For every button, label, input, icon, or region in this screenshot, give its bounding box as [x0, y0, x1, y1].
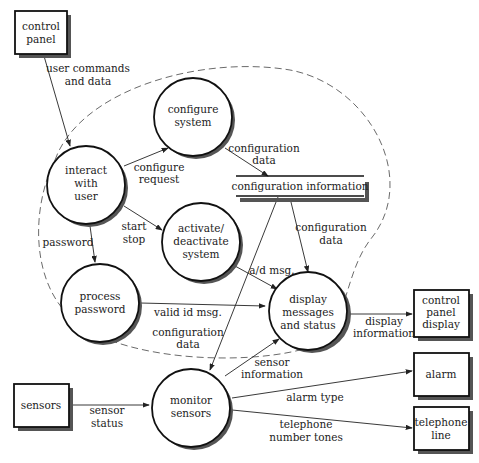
svg-text:display: display	[289, 293, 327, 305]
svg-text:sensors: sensors	[21, 399, 61, 411]
svg-text:alarm type: alarm type	[286, 391, 343, 403]
svg-text:interact: interact	[65, 164, 108, 176]
process-interact-with-user: interact with user	[47, 146, 128, 227]
svg-text:information: information	[241, 368, 303, 380]
svg-text:data: data	[252, 154, 275, 166]
process-monitor-sensors: monitor sensors	[152, 369, 233, 450]
svg-text:user commands: user commands	[46, 62, 130, 74]
svg-text:configure: configure	[134, 161, 185, 173]
svg-text:password: password	[43, 236, 94, 248]
svg-text:configure: configure	[168, 103, 219, 115]
svg-text:start: start	[121, 220, 147, 232]
process-display-messages-and-status: display messages and status	[269, 272, 351, 353]
svg-text:data: data	[319, 234, 342, 246]
svg-text:sensor: sensor	[254, 356, 290, 368]
svg-text:alarm: alarm	[426, 368, 457, 380]
process-configure-system: configure system	[154, 78, 235, 159]
svg-text:configuration information: configuration information	[232, 180, 369, 192]
svg-text:control: control	[22, 20, 61, 32]
svg-text:configuration: configuration	[152, 326, 224, 338]
data-flow-diagram: control panel control panel display alar…	[0, 0, 479, 463]
svg-text:panel: panel	[426, 306, 456, 318]
svg-text:information: information	[353, 327, 415, 339]
svg-text:configuration: configuration	[228, 142, 300, 154]
svg-text:sensor: sensor	[89, 404, 125, 416]
process-activate-deactivate-system: activate/ deactivate system	[162, 203, 243, 284]
svg-text:user: user	[74, 190, 98, 202]
svg-text:configuration: configuration	[295, 221, 367, 233]
svg-text:system: system	[174, 116, 211, 128]
svg-text:and status: and status	[280, 319, 335, 331]
svg-text:sensors: sensors	[171, 407, 211, 419]
svg-text:password: password	[75, 303, 126, 315]
svg-text:a/d msg.: a/d msg.	[249, 264, 294, 276]
svg-text:request: request	[139, 173, 180, 185]
external-control-panel-display: control panel display	[414, 290, 473, 341]
svg-text:status: status	[91, 417, 123, 429]
svg-text:activate/: activate/	[178, 222, 224, 234]
svg-text:with: with	[74, 177, 98, 189]
svg-text:messages: messages	[282, 306, 334, 318]
svg-text:number tones: number tones	[269, 431, 343, 443]
process-process-password: process password	[61, 264, 142, 345]
external-sensors: sensors	[14, 384, 73, 431]
external-telephone-line: telephone line	[414, 407, 473, 454]
svg-text:valid id msg.: valid id msg.	[153, 306, 222, 318]
svg-text:data: data	[176, 338, 199, 350]
svg-text:display: display	[365, 315, 403, 327]
svg-text:telephone: telephone	[415, 416, 468, 428]
svg-text:telephone: telephone	[280, 418, 333, 430]
svg-text:display: display	[422, 318, 460, 330]
svg-text:deactivate: deactivate	[173, 235, 228, 247]
svg-text:panel: panel	[26, 33, 56, 45]
svg-text:process: process	[80, 290, 121, 302]
external-control-panel: control panel	[15, 11, 71, 58]
svg-text:line: line	[431, 429, 451, 441]
datastore-configuration-information: configuration information	[232, 176, 369, 202]
external-alarm: alarm	[414, 353, 473, 400]
svg-text:control: control	[422, 294, 461, 306]
svg-text:system: system	[182, 248, 219, 260]
svg-text:stop: stop	[123, 233, 146, 245]
svg-text:monitor: monitor	[170, 394, 213, 406]
svg-text:and data: and data	[65, 75, 112, 87]
